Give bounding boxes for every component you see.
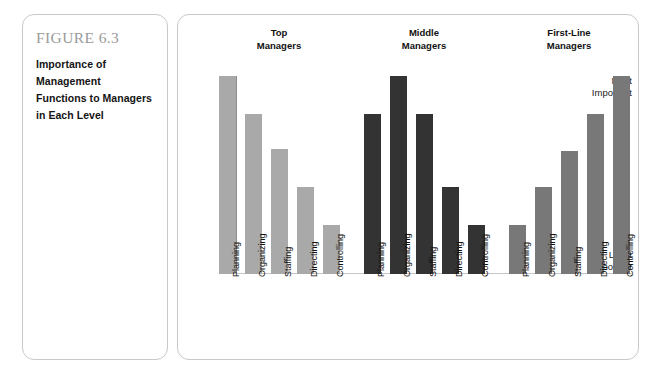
- figure-title: Importance of Management Functions to Ma…: [36, 56, 154, 124]
- figure-caption-panel: FIGURE 6.3 Importance of Management Func…: [22, 14, 168, 360]
- chart-panel: Top ManagersMiddle ManagersFirst-Line Ma…: [177, 14, 639, 360]
- x-tick-label-text: Controlling: [626, 234, 635, 277]
- x-tick-top-managers-planning: Planning: [219, 277, 236, 347]
- x-tick-first-line-managers-planning: Planning: [509, 277, 526, 347]
- x-tick-first-line-managers-staffing: Staffing: [561, 277, 578, 347]
- x-tick-label-text: Planning: [522, 242, 531, 277]
- plot-area: Most Important Least Important PlanningO…: [178, 15, 638, 359]
- x-tick-label-text: Staffing: [284, 247, 293, 277]
- x-tick-label-text: Organizing: [548, 233, 557, 277]
- x-tick-top-managers-controlling: Controlling: [323, 277, 340, 347]
- x-tick-top-managers-staffing: Staffing: [271, 277, 288, 347]
- x-tick-first-line-managers-directing: Directing: [587, 277, 604, 347]
- x-tick-label-text: Controlling: [336, 234, 345, 277]
- x-tick-label-text: Controlling: [481, 234, 490, 277]
- x-tick-middle-managers-organizing: Organizing: [390, 277, 407, 347]
- x-tick-label-text: Directing: [600, 241, 609, 277]
- x-tick-label-text: Directing: [455, 241, 464, 277]
- bars-layer: [236, 76, 632, 274]
- x-tick-middle-managers-directing: Directing: [442, 277, 459, 347]
- x-tick-top-managers-organizing: Organizing: [245, 277, 262, 347]
- x-tick-label-text: Organizing: [258, 233, 267, 277]
- figure-number: FIGURE 6.3: [36, 29, 154, 46]
- x-tick-label-text: Staffing: [574, 247, 583, 277]
- x-tick-first-line-managers-organizing: Organizing: [535, 277, 552, 347]
- x-tick-label-text: Planning: [232, 242, 241, 277]
- x-tick-first-line-managers-controlling: Controlling: [613, 277, 630, 347]
- x-tick-label-text: Organizing: [403, 233, 412, 277]
- x-tick-label-text: Planning: [377, 242, 386, 277]
- x-tick-middle-managers-staffing: Staffing: [416, 277, 433, 347]
- x-tick-label-text: Directing: [310, 241, 319, 277]
- x-tick-top-managers-directing: Directing: [297, 277, 314, 347]
- x-tick-middle-managers-planning: Planning: [364, 277, 381, 347]
- x-tick-label-text: Staffing: [429, 247, 438, 277]
- x-tick-middle-managers-controlling: Controlling: [468, 277, 485, 347]
